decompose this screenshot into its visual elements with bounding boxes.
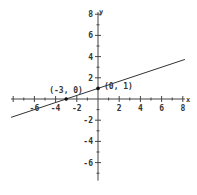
x-tick-label: 8 — [180, 104, 185, 113]
coordinate-plane: -6-4-224688642-2-4-6xy(-3, 0)(0, 1) — [0, 0, 197, 195]
x-axis-label: x — [186, 96, 191, 104]
y-axis-label: y — [99, 8, 104, 16]
y-tick-label: 2 — [88, 74, 93, 83]
point-label: (-3, 0) — [49, 86, 83, 95]
y-tick-label: 6 — [88, 31, 93, 40]
x-tick-label: 2 — [117, 104, 122, 113]
y-tick-label: -2 — [83, 116, 93, 125]
x-tick-label: 4 — [138, 104, 143, 113]
y-tick-label: -4 — [83, 137, 93, 146]
point-marker — [96, 87, 100, 91]
y-tick-label: 8 — [88, 10, 93, 19]
point-label: (0, 1) — [104, 82, 133, 91]
x-tick-label: -4 — [51, 104, 61, 113]
x-tick-label: 6 — [159, 104, 164, 113]
x-tick-label: -2 — [72, 104, 82, 113]
y-tick-label: 4 — [88, 53, 93, 62]
y-tick-label: -6 — [83, 159, 93, 168]
point-marker — [64, 97, 68, 101]
